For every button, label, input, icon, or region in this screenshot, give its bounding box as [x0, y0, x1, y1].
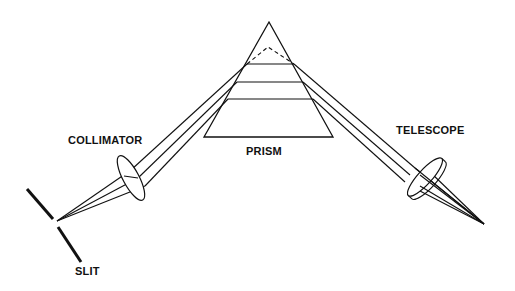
slit-label: SLIT [75, 265, 100, 277]
spectrometer-diagram: COLLIMATOR PRISM TELESCOPE SLIT [0, 0, 515, 291]
collimator-label: COLLIMATOR [68, 134, 142, 146]
refracted-beams [294, 64, 484, 224]
slit [27, 189, 81, 262]
telescope-lens [403, 154, 451, 204]
prism-label: PRISM [246, 145, 282, 157]
prism [204, 22, 333, 137]
collimator-lens [112, 152, 150, 204]
telescope-label: TELESCOPE [396, 124, 464, 136]
